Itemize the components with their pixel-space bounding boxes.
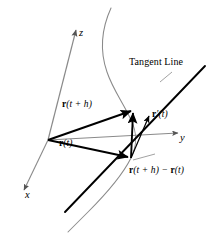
- vector-r-t-plus-h: [48, 111, 131, 140]
- axis-label-x: x: [25, 190, 30, 201]
- secant-label-end: (t): [175, 165, 184, 175]
- x-axis: [24, 140, 48, 190]
- axis-label-z: z: [79, 28, 83, 39]
- vector-label-derivative: r′(t): [152, 110, 168, 120]
- diagram-canvas: [0, 0, 217, 234]
- axis-label-y: y: [180, 133, 185, 144]
- derivative-label-argument: ′(t): [156, 109, 167, 119]
- vector-label-r-t: r(t): [59, 139, 73, 149]
- vector-label-argument: (t + h): [66, 99, 92, 109]
- leader-to-tangent-label: [160, 72, 172, 82]
- vector-label-secant-difference: r(t + h) − r(t): [129, 166, 184, 176]
- secant-label-middle: (t + h) −: [133, 165, 170, 175]
- vector-derivative: [131, 116, 149, 158]
- z-axis: [48, 30, 76, 140]
- tangent-line-label: Tangent Line: [129, 57, 183, 67]
- vector-derivative-diagram: z y x Tangent Line r(t + h) r(t) r(t + h…: [0, 0, 217, 234]
- vector-label-r-t-plus-h: r(t + h): [62, 100, 92, 110]
- vectors-group: [48, 111, 149, 158]
- vector-label-argument: (t): [63, 138, 72, 148]
- leader-to-difference-label: [133, 154, 155, 160]
